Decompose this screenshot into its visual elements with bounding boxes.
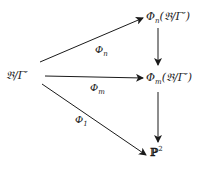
edge-label-phi-n: Φn bbox=[95, 44, 108, 58]
arrow-phi-m bbox=[45, 76, 143, 78]
arrow-phi-n bbox=[40, 18, 143, 62]
node-phi-m-image: Φm(𝔅/Γ′) bbox=[146, 71, 192, 86]
node-source-label: 𝔅/Γ′ bbox=[6, 69, 28, 82]
edge-label-phi-m: Φm bbox=[90, 82, 105, 96]
edge-label-phi-1: Φ1 bbox=[75, 114, 88, 128]
node-projective-plane: ℙ2 bbox=[150, 145, 163, 159]
node-source: 𝔅/Γ′ bbox=[6, 69, 28, 82]
node-phi-n-image: Φn(𝔅/Γ′) bbox=[146, 10, 190, 25]
